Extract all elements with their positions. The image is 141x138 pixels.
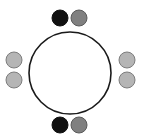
top-left-electron-dot (52, 10, 68, 26)
top-right-electron-dot (71, 10, 87, 26)
diagram-canvas (0, 0, 141, 138)
left-lower-electron-dot (6, 72, 22, 88)
left-upper-electron-dot (6, 52, 22, 68)
right-lower-electron-dot (119, 72, 135, 88)
right-upper-electron-dot (119, 52, 135, 68)
bottom-right-electron-dot (71, 117, 87, 133)
bottom-left-electron-dot (52, 117, 68, 133)
valence-shell-circle (29, 32, 111, 114)
lewis-dot-diagram (0, 0, 141, 138)
